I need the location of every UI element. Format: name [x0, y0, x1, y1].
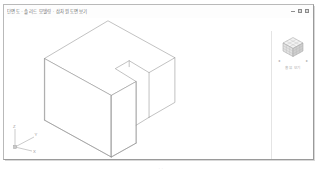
x-axis-label: X — [33, 149, 36, 154]
cad-window: 단면도 · 솔리드 모델링 · 삼차원 도면보기 — [3, 4, 314, 160]
close-icon[interactable] — [305, 9, 309, 13]
viewport-canvas[interactable]: Z Y X — [4, 18, 313, 159]
bottom-status-marker: · · — [0, 167, 322, 171]
viewcube-icon[interactable] — [281, 36, 305, 58]
notched-block-wireframe — [45, 21, 175, 157]
viewcube-arrows: ◂ ▸ — [278, 59, 308, 63]
axis-origin-marker — [13, 145, 16, 148]
navigation-panel: ◂ ▸ 홈 뷰 보기 — [271, 31, 313, 159]
x-axis-line — [15, 147, 32, 151]
notch-bottom-edge — [136, 117, 149, 125]
maximize-icon[interactable] — [298, 9, 302, 13]
model-drawing — [4, 18, 313, 159]
title-bar: 단면도 · 솔리드 모델링 · 삼차원 도면보기 — [4, 5, 313, 18]
y-axis-label: Y — [35, 132, 38, 137]
axis-triad[interactable]: Z Y X — [12, 125, 42, 153]
application-window: 단면도 · 솔리드 모델링 · 삼차원 도면보기 — [0, 0, 322, 172]
y-axis-line — [15, 137, 34, 147]
window-controls — [291, 9, 309, 13]
rotate-left-icon[interactable]: ◂ — [278, 59, 280, 63]
viewcube-container[interactable]: ◂ ▸ 홈 뷰 보기 — [272, 36, 313, 70]
minimize-icon[interactable] — [291, 11, 295, 12]
axis-triad-svg: Z Y X — [12, 125, 42, 153]
home-view-label[interactable]: 홈 뷰 보기 — [285, 66, 300, 70]
rotate-right-icon[interactable]: ▸ — [306, 59, 308, 63]
z-axis-label: Z — [13, 125, 16, 129]
window-title: 단면도 · 솔리드 모델링 · 삼차원 도면보기 — [7, 9, 87, 14]
